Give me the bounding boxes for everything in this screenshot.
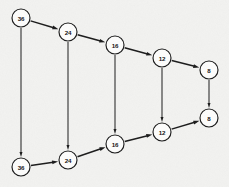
graph-node-top-1[interactable]: 36 — [12, 9, 30, 27]
arrowhead-icon — [99, 39, 105, 43]
edge-bot-3-to-bot-4 — [125, 134, 153, 141]
node-label: 24 — [65, 29, 72, 36]
arrowhead-icon — [67, 145, 70, 150]
graph-node-top-5[interactable]: 8 — [200, 61, 218, 79]
arrowhead-icon — [208, 103, 211, 108]
arrowhead-icon — [99, 147, 105, 151]
graph-node-bot-3[interactable]: 16 — [106, 135, 124, 153]
arrowhead-icon — [193, 64, 199, 68]
graph-node-top-2[interactable]: 24 — [59, 23, 77, 41]
diagram-canvas: 362416128362416128 — [0, 0, 229, 187]
edge-top-4-to-bot-4 — [161, 68, 164, 122]
edge-top-3-to-bot-3 — [114, 55, 117, 134]
edge-bot-1-to-bot-2 — [31, 160, 58, 165]
edge-top-3-to-top-4 — [125, 48, 153, 56]
arrowhead-icon — [146, 52, 152, 56]
directed-graph: 362416128362416128 — [0, 0, 229, 187]
graph-node-bot-4[interactable]: 12 — [153, 123, 171, 141]
graph-node-top-3[interactable]: 16 — [106, 36, 124, 54]
node-label: 24 — [65, 157, 72, 164]
graph-node-bot-2[interactable]: 24 — [59, 151, 77, 169]
arrowhead-icon — [52, 160, 58, 164]
graph-node-bot-1[interactable]: 36 — [12, 158, 30, 176]
edge-top-1-to-bot-1 — [20, 28, 23, 157]
graph-node-bot-5[interactable]: 8 — [200, 109, 218, 127]
arrowhead-icon — [161, 117, 164, 122]
edge-top-2-to-bot-2 — [67, 42, 70, 150]
edge-top-2-to-top-3 — [78, 35, 106, 43]
edge-top-1-to-top-2 — [31, 21, 59, 29]
graph-node-top-4[interactable]: 12 — [153, 49, 171, 67]
arrowhead-icon — [114, 129, 117, 134]
arrowhead-icon — [146, 134, 152, 138]
edge-bot-4-to-bot-5 — [172, 121, 200, 129]
node-label: 16 — [112, 42, 119, 49]
arrowhead-icon — [20, 152, 23, 157]
node-label: 12 — [159, 129, 166, 136]
node-label: 16 — [112, 141, 119, 148]
node-label: 36 — [18, 164, 25, 171]
arrowhead-icon — [193, 121, 199, 125]
node-label: 36 — [18, 15, 25, 22]
edge-bot-2-to-bot-3 — [77, 147, 105, 157]
arrowhead-icon — [52, 26, 58, 30]
node-label: 12 — [159, 55, 166, 62]
edge-top-4-to-top-5 — [172, 60, 200, 67]
edge-top-5-to-bot-5 — [208, 80, 211, 108]
